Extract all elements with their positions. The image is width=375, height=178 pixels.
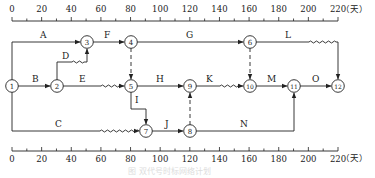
node-2: 2 [51, 80, 64, 93]
svg-text:7: 7 [144, 128, 148, 136]
axis-tick-label: 120 [182, 154, 198, 164]
axis-tick-label: 80 [125, 154, 136, 164]
axis-tick-label: 20 [36, 154, 47, 164]
network-diagram: 020406080100120140160180200220 （天） 02040… [0, 0, 375, 178]
label-o: O [312, 74, 319, 84]
node-5: 5 [125, 80, 138, 93]
svg-text:11: 11 [290, 83, 298, 90]
svg-text:5: 5 [129, 83, 133, 91]
axis-tick-label: 80 [125, 4, 136, 14]
axis-tick-label: 0 [9, 154, 14, 164]
axis-tick-label: 140 [211, 4, 227, 14]
svg-text:9: 9 [188, 83, 192, 91]
axis-tick-label: 180 [271, 154, 287, 164]
label-m: M [267, 74, 276, 84]
axis-tick-label: 40 [66, 154, 77, 164]
axis-tick-label: 20 [36, 4, 47, 14]
label-b: B [32, 74, 39, 84]
svg-text:12: 12 [334, 83, 342, 90]
axis-tick-label: 200 [300, 154, 316, 164]
node-9: 9 [184, 80, 197, 93]
node-6: 6 [244, 36, 257, 49]
axis-tick-label: 100 [152, 4, 168, 14]
activity-d-float [72, 49, 87, 63]
activity-e-float [101, 85, 124, 87]
label-g: G [186, 30, 193, 40]
axis-tick-label: 120 [182, 4, 198, 14]
top-time-axis: 020406080100120140160180200220 （天） [9, 4, 368, 21]
bottom-unit-label: （天） [341, 153, 368, 163]
svg-text:3: 3 [85, 39, 89, 47]
node-3: 3 [81, 36, 94, 49]
node-1: 1 [6, 80, 19, 93]
svg-text:10: 10 [246, 83, 254, 90]
activity-k-float [220, 85, 243, 87]
label-a: A [39, 30, 47, 40]
label-f: F [104, 30, 110, 40]
activity-c-float [100, 130, 139, 132]
label-k: K [206, 74, 213, 84]
activity-labels: A B C D E F G H I J K L M N O [32, 30, 319, 129]
axis-tick-label: 180 [271, 4, 287, 14]
bottom-time-axis: 020406080100120140160180200220 （天） [9, 147, 368, 164]
axis-tick-label: 60 [95, 4, 106, 14]
label-n: N [240, 119, 248, 129]
svg-text:6: 6 [248, 39, 253, 47]
svg-text:2: 2 [55, 83, 59, 91]
node-10: 10 [244, 80, 257, 93]
node-8: 8 [184, 125, 197, 138]
axis-tick-label: 100 [152, 154, 168, 164]
node-12: 12 [332, 80, 345, 93]
label-i: I [135, 95, 139, 105]
label-e: E [79, 74, 86, 84]
label-l: L [285, 30, 291, 40]
activity-d-arrow [57, 62, 72, 80]
label-c: C [55, 119, 62, 129]
node-11: 11 [288, 80, 301, 93]
node-4: 4 [125, 36, 138, 49]
activity-a-arrow [12, 42, 80, 80]
axis-tick-label: 40 [66, 4, 77, 14]
svg-text:4: 4 [129, 39, 134, 47]
svg-text:8: 8 [188, 128, 192, 136]
axis-tick-label: 200 [300, 4, 316, 14]
label-h: H [156, 74, 164, 84]
label-d: D [62, 51, 69, 61]
label-j: J [164, 119, 169, 129]
axis-tick-label: 0 [9, 4, 14, 14]
axis-tick-label: 60 [95, 154, 106, 164]
top-unit-label: （天） [341, 4, 368, 14]
figure-caption: 图 双代号时标网络计划 [128, 166, 211, 176]
axis-tick-label: 140 [211, 154, 227, 164]
axis-tick-label: 160 [241, 154, 257, 164]
node-7: 7 [140, 125, 153, 138]
svg-text:1: 1 [10, 83, 14, 91]
axis-tick-label: 160 [241, 4, 257, 14]
